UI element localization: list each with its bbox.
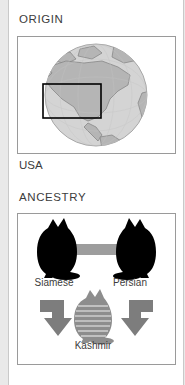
parent-label-persian: Persian — [97, 277, 163, 288]
cat-silhouette-icon-persian — [113, 218, 156, 280]
arrow-icon-right — [121, 300, 153, 336]
arrow-icon-left — [40, 300, 72, 336]
origin-caption: USA — [19, 159, 43, 171]
parent-label-siamese: Siamese — [21, 277, 87, 288]
origin-panel — [17, 36, 176, 154]
origin-section-title: ORIGIN — [19, 13, 64, 25]
info-card: ORIGIN — [8, 0, 184, 385]
globe-north-america-icon — [18, 37, 175, 153]
cat-silhouette-icon-siamese — [37, 218, 80, 280]
offspring-label-kashmir: Kashmir — [53, 340, 133, 351]
ancestry-section-title: ANCESTRY — [19, 191, 86, 203]
cat-striped-icon-kashmir — [74, 289, 114, 345]
